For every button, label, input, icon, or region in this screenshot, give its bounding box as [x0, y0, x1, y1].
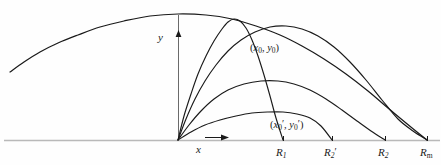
y-axis-arrow-icon — [176, 30, 182, 37]
range-label-Rm: Rm — [420, 147, 433, 160]
x-axis-arrow-icon — [221, 135, 229, 141]
x-axis-arrow-group — [205, 135, 229, 141]
point-label-x0-y0: (x0, y0) — [250, 43, 279, 55]
y-axis-label: y — [158, 32, 163, 43]
range-label-R1: R1 — [276, 147, 286, 160]
curve-envelope-parabola — [10, 14, 427, 140]
y-axis-group — [176, 15, 182, 140]
curve-trajectory-flat — [178, 112, 332, 140]
figure-canvas — [0, 0, 441, 165]
projectile-trajectory-figure: y x (x0, y0) (x0′, y0′) R1 R2′ R2 Rm — [0, 0, 441, 165]
curve-trajectory-steep — [178, 19, 283, 140]
range-label-R2-prime: R2′ — [324, 147, 337, 160]
range-label-R2: R2 — [378, 147, 388, 160]
point-label-x0prime-y0prime: (x0′, y0′) — [270, 119, 303, 132]
x-axis-label: x — [196, 144, 201, 155]
trajectory-curves-group — [10, 14, 427, 140]
